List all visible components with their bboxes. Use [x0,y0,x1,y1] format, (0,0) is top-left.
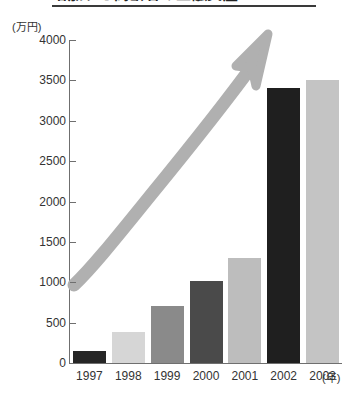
y-axis-tick [70,242,76,243]
y-axis-tick-label: 0 [4,356,66,370]
y-axis-tick [70,80,76,81]
bar-1997 [73,351,106,363]
y-axis-tick-label: 4000 [4,33,66,47]
bar-2003 [306,80,339,363]
y-axis-tick-label: 2500 [4,154,66,168]
y-axis-tick-label: 1000 [4,275,66,289]
x-axis-unit-label: (年) [322,369,340,385]
y-axis-tick [70,282,76,283]
y-axis-tick-label: 500 [4,316,66,330]
y-axis-tick [70,161,76,162]
x-axis-tick-label: 1997 [70,369,109,383]
y-axis-tick [70,323,76,324]
plot-area [70,40,342,363]
x-axis-line [69,363,342,364]
y-axis-tick [70,121,76,122]
y-axis-tick-label: 2000 [4,195,66,209]
y-axis-tick [70,40,76,41]
y-axis-tick-label: 3000 [4,114,66,128]
x-axis-tick-label: 1998 [109,369,148,383]
bar-2001 [228,258,261,363]
x-axis-tick-label: 2001 [225,369,264,383]
bar-1999 [151,306,184,363]
bar-1998 [112,332,145,363]
chart-title-text: 増加する高齢者の金融資産 [52,0,316,2]
x-axis-tick-label: 2002 [264,369,303,383]
x-axis-tick-label: 1999 [148,369,187,383]
x-axis-tick-label: 2000 [187,369,226,383]
y-axis-tick [70,363,76,364]
y-axis-tick-label: 3500 [4,73,66,87]
y-axis-labels: 05001000150020002500300035004000 [0,0,66,393]
chart-screenshot: 増加する高齢者の金融資産 (万円) 0500100015002000250030… [0,0,351,393]
bars-layer [70,40,342,363]
title-underline [52,5,316,7]
y-axis-tick [70,202,76,203]
y-axis-tick-label: 1500 [4,235,66,249]
bar-2002 [267,88,300,363]
bar-2000 [190,281,223,363]
